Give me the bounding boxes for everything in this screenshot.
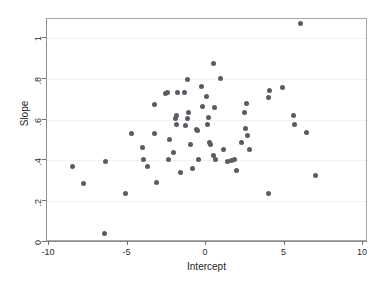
data-point	[174, 113, 179, 118]
x-tick-mark	[284, 241, 285, 245]
data-point	[208, 142, 213, 147]
data-point	[154, 180, 159, 185]
plot-area	[46, 18, 367, 241]
data-point	[298, 21, 303, 26]
data-point	[167, 137, 172, 142]
y-tick-label-text: 1	[33, 36, 43, 41]
data-point	[211, 61, 216, 66]
scatter-plot-figure: 0.2.4.6.81 -10-50510 Slope Intercept	[0, 0, 384, 290]
data-point	[244, 101, 249, 106]
x-tick-label: -10	[28, 247, 68, 257]
data-point	[313, 173, 318, 178]
data-point	[245, 133, 250, 138]
data-point	[185, 77, 190, 82]
gridline-y	[47, 201, 366, 202]
y-tick-label: .4	[33, 158, 43, 196]
x-tick-label: 5	[264, 247, 304, 257]
x-tick-mark	[205, 241, 206, 245]
x-tick-label: -5	[107, 247, 147, 257]
data-point	[280, 85, 285, 90]
data-point	[267, 88, 272, 93]
data-point	[178, 170, 183, 175]
x-axis-line	[46, 241, 367, 242]
data-point	[234, 168, 239, 173]
data-point	[190, 166, 195, 171]
data-point	[188, 142, 193, 147]
x-tick-label: 10	[342, 247, 382, 257]
data-point	[239, 140, 244, 145]
data-point	[200, 104, 205, 109]
data-point	[174, 122, 179, 127]
gridline-y	[47, 38, 366, 39]
data-point	[145, 164, 150, 169]
y-tick-label-text: .6	[33, 118, 43, 126]
y-tick-label: .8	[33, 77, 43, 115]
data-point	[102, 231, 107, 236]
y-axis-line	[46, 18, 47, 242]
y-tick-label: .6	[33, 118, 43, 156]
data-point	[175, 90, 180, 95]
data-point	[70, 164, 75, 169]
y-tick-label: .2	[33, 199, 43, 237]
data-point	[129, 131, 134, 136]
data-point	[140, 145, 145, 150]
data-point	[195, 128, 200, 133]
data-point	[196, 157, 201, 162]
data-point	[218, 76, 223, 81]
data-point	[166, 157, 171, 162]
data-point	[123, 191, 128, 196]
data-point	[165, 90, 170, 95]
data-point	[266, 191, 271, 196]
data-point	[183, 123, 188, 128]
x-tick-label: 0	[185, 247, 225, 257]
data-point	[304, 130, 309, 135]
y-tick-label: 1	[33, 36, 43, 74]
x-tick-mark	[48, 241, 49, 245]
data-point	[291, 113, 296, 118]
x-tick-mark	[362, 241, 363, 245]
x-tick-mark	[127, 241, 128, 245]
data-point	[171, 150, 176, 155]
data-point	[199, 84, 204, 89]
data-point	[182, 90, 187, 95]
data-point	[152, 131, 157, 136]
data-point	[242, 110, 247, 115]
data-point	[232, 157, 237, 162]
y-tick-label-text: 0	[33, 240, 43, 245]
gridline-y	[47, 79, 366, 80]
gridline-y	[47, 120, 366, 121]
data-point	[221, 147, 226, 152]
data-point	[206, 115, 211, 120]
data-point	[152, 102, 157, 107]
data-point	[103, 159, 108, 164]
data-point	[292, 122, 297, 127]
data-point	[186, 110, 191, 115]
x-axis-label: Intercept	[46, 261, 367, 272]
data-point	[204, 94, 209, 99]
gridline-y	[47, 160, 366, 161]
y-tick-label: 0	[33, 240, 43, 278]
data-point	[243, 126, 248, 131]
y-tick-label-text: .8	[33, 77, 43, 85]
y-tick-label-text: .4	[33, 158, 43, 166]
y-axis-label: Slope	[19, 44, 30, 184]
data-point	[81, 181, 86, 186]
data-point	[247, 147, 252, 152]
data-point	[205, 122, 210, 127]
data-point	[213, 157, 218, 162]
data-point	[212, 105, 217, 110]
y-tick-label-text: .2	[33, 199, 43, 207]
data-point	[266, 95, 271, 100]
